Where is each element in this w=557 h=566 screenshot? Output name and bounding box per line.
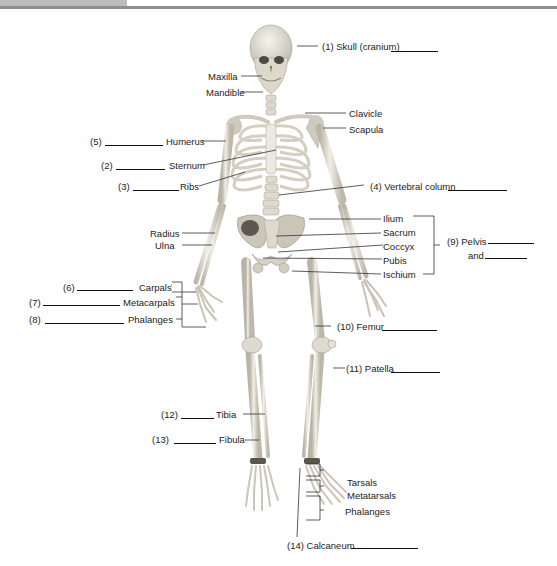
label-radius: Radius [150,228,180,239]
label-humerus: Humerus [166,136,205,147]
label-mandible: Mandible [206,87,245,98]
label-carpals: Carpals [139,282,172,293]
label-clavicle: Clavicle [349,108,382,119]
label-sacrum: Sacrum [383,227,416,238]
answer-blank-ribs[interactable] [133,190,179,191]
label-scapula: Scapula [349,124,383,135]
label-tarsals: Tarsals [347,477,377,488]
label-phalanges-foot: Phalanges [345,506,390,517]
answer-blank-tibia[interactable] [181,418,214,419]
label-ribs-number: (3) [118,181,130,192]
hand-bones [196,280,386,322]
label-metatarsals: Metatarsals [347,490,396,501]
label-fibula: Fibula [219,434,245,445]
label-tibia: Tibia [216,409,236,420]
label-coccyx: Coccyx [383,241,414,252]
label-metacarpals: Metacarpals [123,297,175,308]
label-ischium: Ischium [383,269,416,280]
label-calcaneum: (14) Calcaneum [287,540,355,551]
answer-blank-fibula[interactable] [174,443,216,444]
label-phalanges-hand: Phalanges [128,314,173,325]
label-pubis: Pubis [383,255,407,266]
leg-bones [246,262,320,458]
answer-blank-vertebral-column[interactable] [448,190,507,191]
ankle-bones [250,458,320,464]
answer-blank-pelvis-1[interactable] [488,243,534,244]
answer-blank-femur[interactable] [382,330,437,331]
label-ilium: Ilium [383,213,403,224]
answer-blank-patella[interactable] [391,372,440,373]
label-ulna: Ulna [155,240,175,251]
label-patella: (11) Patella [346,363,394,374]
answer-blank-metacarpals[interactable] [43,305,120,306]
label-pelvis: (9) Pelvis [447,236,487,247]
answer-blank-skull[interactable] [391,51,438,52]
label-sternum: Sternum [169,160,205,171]
skull-bone [250,25,292,94]
answer-blank-humerus[interactable] [105,145,163,146]
label-maxilla: Maxilla [208,71,238,82]
answer-blank-phalanges-hand[interactable] [45,323,124,324]
answer-blank-sternum[interactable] [116,169,165,170]
label-vertebral-column: (4) Vertebral column [370,181,456,192]
clavicle-bone [236,116,312,122]
label-ribs: Ribs [180,181,199,192]
answer-blank-calcaneum[interactable] [351,548,418,549]
answer-blank-carpals[interactable] [77,290,133,291]
skeleton-illustration [0,0,557,566]
foot-bones [246,466,346,510]
label-fibula-number: (13) [152,434,169,445]
label-sternum-number: (2) [101,160,113,171]
label-tibia-number: (12) [161,409,178,420]
knee-bones [242,337,336,353]
label-skull: (1) Skull (cranium) [322,41,400,52]
label-phalanges-hand-number: (8) [29,314,41,325]
label-femur: (10) Femur [337,321,384,332]
label-metacarpals-number: (7) [29,297,41,308]
label-humerus-number: (5) [90,136,102,147]
label-carpals-number: (6) [63,282,75,293]
answer-blank-pelvis-2[interactable] [485,258,527,259]
sternum-bone [266,124,276,174]
label-pelvis-and: and [468,250,484,261]
